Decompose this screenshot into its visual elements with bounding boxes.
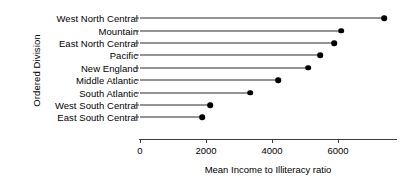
x-axis-tick-mark [272,139,273,143]
x-axis-title: Mean Income to Illiteracy ratio [139,164,397,175]
stem-line [140,67,308,68]
x-axis-tick-label: 2000 [195,145,216,156]
x-axis-tick-label: 0 [137,145,142,156]
stem-line [140,55,320,56]
plot-row: Mountain [0,24,413,36]
y-axis-tick-mark [135,18,139,19]
data-point-marker [331,40,337,46]
stem-line [140,92,250,93]
plot-row: East North Central [0,37,413,49]
x-axis-tick-mark [140,139,141,143]
y-axis-tick-label: East North Central [59,37,138,48]
data-point-marker [247,90,253,96]
x-axis-tick-mark [338,139,339,143]
y-axis-tick-mark [135,55,139,56]
y-axis-tick-label: New England [81,62,138,73]
data-point-marker [338,28,344,34]
plot-row: New England [0,62,413,74]
y-axis-tick-label: Pacific [110,50,138,61]
data-point-marker [381,15,387,21]
stem-line [140,104,210,105]
data-point-marker [305,65,311,71]
y-axis-tick-label: West South Central [55,99,138,110]
plot-row: West North Central [0,12,413,24]
stem-line [140,80,278,81]
y-axis-tick-mark [135,30,139,31]
y-axis-tick-mark [135,80,139,81]
plot-row: East South Central [0,111,413,123]
stem-line [140,30,341,31]
data-point-marker [275,77,281,83]
plot-row: Pacific [0,49,413,61]
y-axis-tick-mark [135,42,139,43]
x-axis-tick-mark [206,139,207,143]
y-axis-tick-label: Mountain [99,25,138,36]
stem-line [140,42,334,43]
y-axis-tick-label: Middle Atlantic [76,75,138,86]
x-axis-tick-label: 4000 [261,145,282,156]
data-point-marker [207,102,213,108]
y-axis-tick-mark [135,117,139,118]
data-point-marker [199,115,205,121]
y-axis-tick-mark [135,67,139,68]
x-axis-line [139,139,397,140]
stem-line [140,117,202,118]
y-axis-tick-label: West North Central [56,13,138,24]
y-axis-tick-mark [135,104,139,105]
plot-row: Middle Atlantic [0,74,413,86]
plot-row: West South Central [0,99,413,111]
x-axis-tick-label: 6000 [327,145,348,156]
y-axis-tick-label: East South Central [57,112,138,123]
y-axis-tick-mark [135,92,139,93]
stem-line [140,18,384,19]
data-point-marker [317,53,323,59]
plot-row: South Atlantic [0,86,413,98]
dot-plot-chart: Ordered Division West North CentralMount… [0,0,413,193]
y-axis-tick-label: South Atlantic [79,87,138,98]
